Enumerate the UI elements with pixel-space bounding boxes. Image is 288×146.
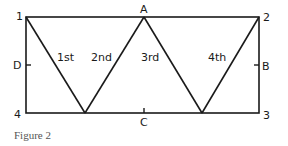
rectangle-frame bbox=[26, 17, 259, 113]
stroke-label-3rd: 3rd bbox=[141, 51, 159, 64]
stroke-line-2nd bbox=[85, 17, 144, 113]
corner-label-3: 3 bbox=[263, 109, 270, 122]
stroke-label-4th: 4th bbox=[208, 51, 226, 64]
stroke-line-4th bbox=[202, 17, 259, 113]
midpoint-label-b: B bbox=[262, 60, 270, 73]
midpoint-label-a: A bbox=[140, 3, 148, 16]
corner-label-4: 4 bbox=[14, 108, 21, 121]
midpoint-label-d: D bbox=[13, 59, 21, 72]
corner-label-1: 1 bbox=[16, 10, 23, 23]
corner-label-2: 2 bbox=[263, 11, 270, 24]
midpoint-label-c: C bbox=[140, 116, 148, 129]
stroke-label-1st: 1st bbox=[57, 51, 75, 64]
figure-caption: Figure 2 bbox=[14, 129, 51, 141]
zigzag-stroke-diagram: 1 2 3 4 A B C D 1st 2nd 3rd 4th Figure 2 bbox=[0, 0, 288, 146]
stroke-label-2nd: 2nd bbox=[91, 51, 112, 64]
stroke-line-3rd bbox=[144, 17, 202, 113]
stroke-line-1st bbox=[26, 17, 85, 113]
